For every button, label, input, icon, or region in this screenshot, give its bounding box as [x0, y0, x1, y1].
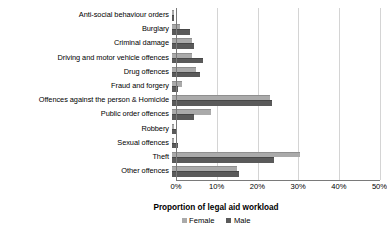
category-label: Theft: [0, 153, 172, 161]
x-tick-label: 10%: [209, 182, 224, 192]
bar-row: Anti-social behaviour orders: [0, 8, 380, 22]
bar-row: Driving and motor vehicle offences: [0, 51, 380, 65]
bar-row: Public order offences: [0, 107, 380, 121]
legend-item-male[interactable]: Male: [226, 216, 250, 225]
x-tick-label: 20%: [250, 182, 265, 192]
legend-label: Female: [189, 216, 214, 225]
bar-pair: [172, 93, 380, 107]
y-axis-line: [176, 8, 177, 180]
category-label: Offences against the person & Homicide: [0, 96, 172, 104]
x-tick-label: 40%: [331, 182, 346, 192]
legend-label: Male: [234, 216, 250, 225]
bar-row: Theft: [0, 150, 380, 164]
bar-pair: [172, 79, 380, 93]
legend-item-female[interactable]: Female: [182, 216, 215, 225]
bar-pair: [172, 122, 380, 136]
legend-swatch-icon: [182, 218, 187, 223]
x-tick-label: 30%: [290, 182, 305, 192]
x-axis-title: Proportion of legal aid workload: [0, 203, 380, 213]
plot-area: Anti-social behaviour ordersBurglaryCrim…: [0, 8, 380, 180]
bar-row: Offences against the person & Homicide: [0, 93, 380, 107]
bar-male: [172, 157, 274, 163]
x-tick-label: 50%: [372, 182, 387, 192]
category-label: Drug offences: [0, 68, 172, 76]
category-label: Other offences: [0, 167, 172, 175]
bar-pair: [172, 150, 380, 164]
bar-male: [172, 29, 190, 35]
bar-row: Burglary: [0, 22, 380, 36]
bar-pair: [172, 164, 380, 178]
bar-male: [172, 15, 174, 21]
category-label: Fraud and forgery: [0, 82, 172, 90]
bar-row: Other offences: [0, 164, 380, 178]
category-label: Public order offences: [0, 110, 172, 118]
bar-male: [172, 100, 272, 106]
category-label: Burglary: [0, 25, 172, 33]
legend-swatch-icon: [226, 218, 231, 223]
bar-pair: [172, 107, 380, 121]
chart-legend: FemaleMale: [0, 216, 380, 225]
x-axis-tick-labels: 0%10%20%30%40%50%: [0, 182, 380, 194]
category-label: Sexual offences: [0, 139, 172, 147]
bar-rows: Anti-social behaviour ordersBurglaryCrim…: [0, 8, 380, 178]
category-label: Anti-social behaviour orders: [0, 11, 172, 19]
bar-pair: [172, 22, 380, 36]
bar-row: Robbery: [0, 122, 380, 136]
category-label: Criminal damage: [0, 39, 172, 47]
x-axis-line: [176, 180, 380, 181]
bar-pair: [172, 8, 380, 22]
bar-row: Drug offences: [0, 65, 380, 79]
bar-row: Fraud and forgery: [0, 79, 380, 93]
bar-pair: [172, 51, 380, 65]
bar-male: [172, 171, 239, 177]
bar-pair: [172, 65, 380, 79]
category-label: Driving and motor vehicle offences: [0, 54, 172, 62]
bar-pair: [172, 136, 380, 150]
x-tick-label: 0%: [171, 182, 182, 192]
bar-row: Sexual offences: [0, 136, 380, 150]
bar-pair: [172, 36, 380, 50]
category-label: Robbery: [0, 125, 172, 133]
bar-row: Criminal damage: [0, 36, 380, 50]
